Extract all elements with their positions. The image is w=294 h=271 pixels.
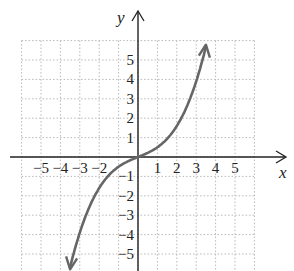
x-tick-label: −3 [72, 160, 88, 176]
x-tick-label: 3 [192, 160, 200, 176]
y-tick-label: 1 [127, 130, 135, 146]
y-tick-label: −1 [118, 168, 134, 184]
y-tick-label: −4 [118, 227, 134, 243]
y-tick-label: 2 [127, 110, 135, 126]
x-tick-label: 4 [212, 160, 220, 176]
y-tick-label: −3 [118, 207, 134, 223]
y-tick-label: 3 [127, 91, 135, 107]
x-tick-label: −4 [52, 160, 68, 176]
x-tick-label: 2 [173, 160, 181, 176]
axes [10, 11, 286, 271]
y-tick-label: −2 [118, 188, 134, 204]
y-tick-label: −5 [118, 246, 134, 262]
x-tick-label: −2 [91, 160, 107, 176]
x-tick-label: 1 [154, 160, 162, 176]
function-graph: −5−4−3−21234554321−1−2−3−4−5 x y [0, 0, 294, 271]
y-tick-label: 4 [127, 71, 135, 87]
y-tick-label: 5 [127, 52, 135, 68]
x-axis-label: x [278, 163, 287, 182]
x-tick-label: 5 [231, 160, 239, 176]
x-tick-label: −5 [33, 160, 49, 176]
y-axis-label: y [115, 8, 125, 27]
